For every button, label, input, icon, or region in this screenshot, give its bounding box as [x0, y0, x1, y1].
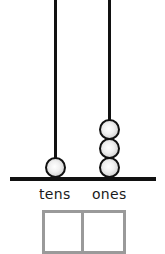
tens-rod — [54, 0, 57, 178]
ones-bead-3 — [99, 119, 120, 140]
tens-answer-box[interactable] — [42, 210, 84, 254]
tens-bead-1 — [45, 157, 66, 178]
ones-bead-2 — [99, 138, 120, 159]
ones-answer-box[interactable] — [84, 210, 126, 254]
abacus-base — [10, 177, 156, 181]
ones-bead-1 — [99, 157, 120, 178]
answer-boxes — [42, 210, 126, 254]
tens-label: tens — [39, 186, 70, 202]
ones-label: ones — [92, 186, 127, 202]
abacus-diagram: tens ones — [0, 0, 165, 254]
